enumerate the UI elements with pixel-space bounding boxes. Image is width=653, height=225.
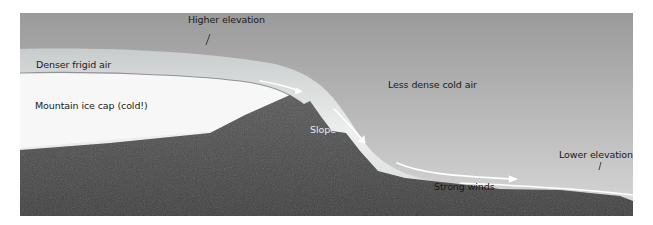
label-strong-winds: Strong winds <box>434 181 495 192</box>
label-mountain-ice-cap: Mountain ice cap (cold!) <box>35 100 148 111</box>
label-slope: Slope <box>310 124 336 135</box>
label-higher-elevation: Higher elevation <box>188 14 265 25</box>
diagram-illustration <box>20 13 633 216</box>
label-lower-elevation: Lower elevation <box>559 149 633 160</box>
label-less-dense-cold-air: Less dense cold air <box>388 79 477 90</box>
label-denser-frigid-air: Denser frigid air <box>36 59 111 70</box>
katabatic-wind-diagram: Higher elevation Denser frigid air Mount… <box>20 13 633 216</box>
